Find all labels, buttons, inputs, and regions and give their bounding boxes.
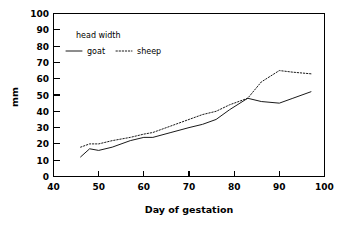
legend-label-goat: goat <box>87 47 105 56</box>
y-tick-label: 100 <box>30 9 49 19</box>
y-tick-label: 20 <box>36 139 49 149</box>
y-tick-label: 80 <box>36 42 49 52</box>
series-line-goat <box>81 92 311 157</box>
legend: head width goat sheep <box>66 31 161 56</box>
y-tick-label: 50 <box>36 91 49 101</box>
x-axis-ticks <box>54 171 325 177</box>
x-tick-label: 40 <box>47 182 60 192</box>
y-axis-ticks <box>54 14 60 177</box>
chart-figure: 100 90 80 70 60 50 40 30 20 10 0 40 50 6… <box>0 0 354 227</box>
x-tick-label: 70 <box>183 182 196 192</box>
series-line-sheep <box>81 71 311 148</box>
line-chart: 100 90 80 70 60 50 40 30 20 10 0 40 50 6… <box>0 0 354 227</box>
x-tick-label: 50 <box>92 182 105 192</box>
y-tick-label: 90 <box>36 25 49 35</box>
y-tick-label: 60 <box>36 74 49 84</box>
y-tick-label: 0 <box>43 172 49 182</box>
y-axis-title: mm <box>9 87 20 107</box>
y-tick-label: 70 <box>36 58 49 68</box>
x-tick-label: 90 <box>273 182 286 192</box>
legend-label-sheep: sheep <box>137 47 161 56</box>
y-tick-label: 40 <box>36 107 49 117</box>
legend-title: head width <box>76 31 121 40</box>
y-tick-label: 30 <box>36 123 49 133</box>
x-tick-label: 100 <box>315 182 334 192</box>
x-axis-title: Day of gestation <box>145 204 234 215</box>
x-tick-label: 80 <box>228 182 241 192</box>
y-tick-label: 10 <box>36 156 49 166</box>
x-tick-labels: 40 50 60 70 80 90 100 <box>47 182 334 192</box>
x-tick-label: 60 <box>138 182 151 192</box>
y-tick-labels: 100 90 80 70 60 50 40 30 20 10 0 <box>30 9 49 182</box>
